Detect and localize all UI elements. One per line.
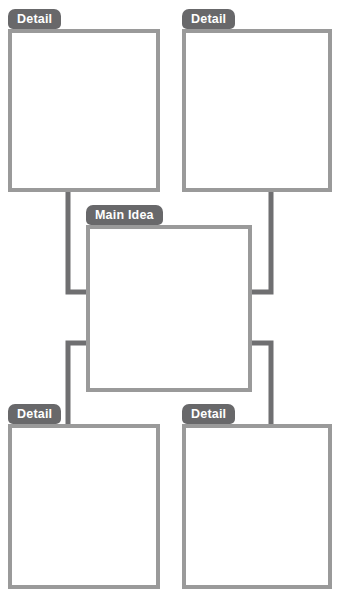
- detail-box-bottom-left[interactable]: [8, 424, 160, 589]
- main-idea-tab: Main Idea: [86, 205, 163, 225]
- detail-box-top-left[interactable]: [8, 29, 160, 192]
- detail-tab-bottom-left: Detail: [8, 404, 61, 424]
- detail-tab-top-left: Detail: [8, 9, 61, 29]
- graphic-organizer-canvas: Detail Detail Main Idea Detail Detail: [0, 0, 340, 598]
- detail-box-top-right[interactable]: [182, 29, 332, 192]
- connector-main-to-bottom-right: [249, 343, 271, 426]
- main-idea-box[interactable]: [86, 225, 252, 392]
- connector-top-right-to-main: [249, 190, 271, 292]
- detail-box-top-right-text[interactable]: [186, 33, 328, 188]
- detail-tab-bottom-right: Detail: [182, 404, 235, 424]
- detail-box-bottom-right[interactable]: [182, 424, 332, 589]
- main-idea-box-text[interactable]: [90, 229, 248, 388]
- detail-box-bottom-right-text[interactable]: [186, 428, 328, 585]
- detail-tab-top-right: Detail: [182, 9, 235, 29]
- detail-box-top-left-text[interactable]: [12, 33, 156, 188]
- detail-box-bottom-left-text[interactable]: [12, 428, 156, 585]
